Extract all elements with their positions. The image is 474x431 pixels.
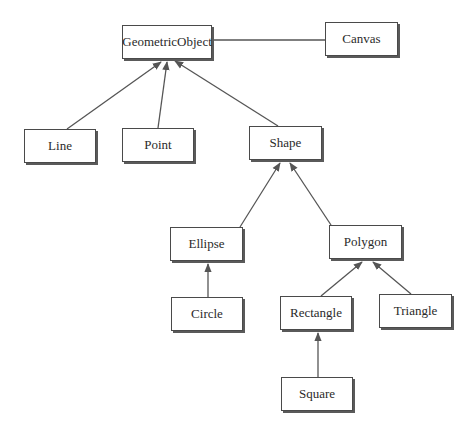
edge-rectangle-to-polygon	[321, 262, 362, 296]
edge-triangle-to-polygon	[373, 262, 411, 294]
node-label: Circle	[191, 306, 223, 322]
node-label: Line	[48, 138, 72, 154]
node-label: Square	[299, 386, 335, 402]
node-canvas: Canvas	[325, 22, 398, 56]
node-label: Point	[144, 137, 171, 153]
node-label: Polygon	[344, 234, 387, 250]
edge-ellipse-to-shape	[240, 163, 280, 227]
node-label: GeometricObject	[122, 34, 212, 50]
node-triangle: Triangle	[379, 294, 452, 328]
node-point: Point	[122, 128, 194, 162]
node-circle: Circle	[171, 297, 243, 331]
node-geometricobject: GeometricObject	[122, 25, 212, 59]
node-label: Rectangle	[290, 305, 342, 321]
node-polygon: Polygon	[329, 225, 402, 259]
node-label: Canvas	[342, 31, 380, 47]
edge-shape-to-geometricobject	[175, 61, 278, 126]
node-ellipse: Ellipse	[170, 227, 243, 261]
node-label: Triangle	[394, 303, 438, 319]
node-label: Shape	[270, 135, 302, 151]
node-shape: Shape	[249, 126, 322, 160]
node-label: Ellipse	[188, 236, 224, 252]
class-hierarchy-diagram: GeometricObject Canvas Line Point Shape …	[0, 0, 474, 431]
node-square: Square	[281, 377, 353, 411]
diagram-edges	[0, 0, 474, 431]
edge-point-to-geometricobject	[158, 62, 167, 128]
edge-line-to-geometricobject	[67, 62, 161, 129]
node-rectangle: Rectangle	[280, 296, 352, 330]
edge-polygon-to-shape	[290, 163, 331, 225]
node-line: Line	[24, 129, 96, 163]
